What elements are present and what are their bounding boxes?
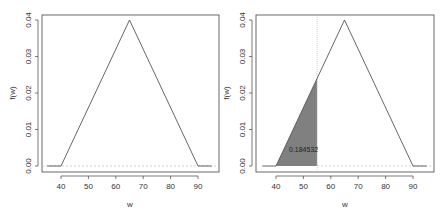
x-tick-label: 90: [194, 182, 203, 191]
y-tick-label: 0.01: [24, 121, 33, 137]
x-axis-title: w: [126, 200, 133, 209]
x-tick-label: 40: [57, 182, 66, 191]
y-tick-label: 0.00: [24, 158, 33, 174]
x-tick-label: 70: [139, 182, 148, 191]
y-axis: 0.00 0.01 0.02 0.03 0.04 f(w): [8, 12, 38, 174]
plot-frame: [256, 15, 434, 172]
y-tick-label: 0.04: [24, 12, 33, 28]
y-axis: 0.00 0.01 0.02 0.03 0.04 f(w): [222, 12, 252, 174]
y-tick-label: 0.04: [238, 12, 247, 28]
y-tick-label: 0.00: [238, 158, 247, 174]
left-plot: 0.00 0.01 0.02 0.03 0.04 f(w) 40 50 60 7…: [8, 12, 219, 209]
x-tick-label: 80: [166, 182, 175, 191]
right-plot: 0.184532 0.00 0.01 0.02 0.03 0.04 f(w) 4: [222, 12, 434, 209]
y-tick-label: 0.02: [238, 85, 247, 101]
y-axis-title: f(w): [222, 86, 231, 100]
y-tick-label: 0.03: [238, 48, 247, 64]
y-tick-label: 0.02: [24, 85, 33, 101]
x-axis-title: w: [341, 200, 348, 209]
x-tick-label: 50: [299, 182, 308, 191]
area-label: 0.184532: [289, 146, 318, 153]
x-tick-label: 70: [354, 182, 363, 191]
figure: 0.00 0.01 0.02 0.03 0.04 f(w) 40 50 60 7…: [0, 0, 445, 216]
y-axis-title: f(w): [8, 86, 17, 100]
plot-frame: [42, 15, 219, 172]
density-line: [47, 20, 211, 166]
y-tick-label: 0.01: [238, 121, 247, 137]
x-tick-label: 40: [272, 182, 281, 191]
x-tick-label: 50: [84, 182, 93, 191]
x-axis: 40 50 60 70 80 90 w: [272, 176, 418, 209]
x-axis: 40 50 60 70 80 90 w: [57, 176, 203, 209]
x-tick-label: 80: [381, 182, 390, 191]
x-tick-label: 90: [409, 182, 418, 191]
x-tick-label: 60: [326, 182, 335, 191]
y-tick-label: 0.03: [24, 48, 33, 64]
x-tick-label: 60: [111, 182, 120, 191]
